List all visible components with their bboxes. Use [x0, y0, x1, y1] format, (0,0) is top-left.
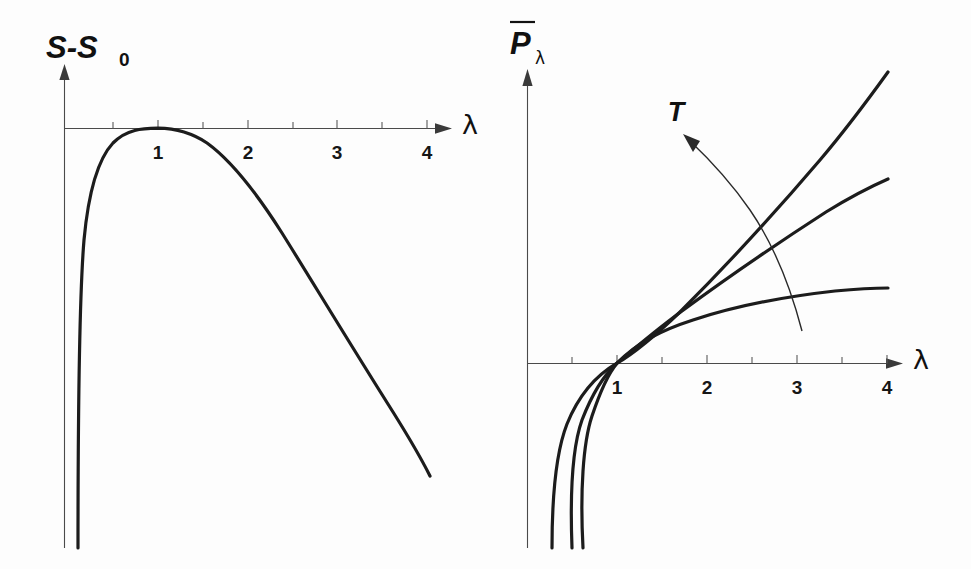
figure-container: 1 2 3 4 S-S 0 λ: [0, 0, 971, 569]
temperature-annotation-label: T: [668, 97, 687, 127]
x-axis-arrowhead: [886, 358, 903, 369]
nominal-stress-vs-extension-plot: 1 2 3 4 P λ λ T: [490, 0, 971, 569]
x-axis-arrowhead: [435, 123, 452, 134]
x-tick-label-2: 2: [243, 142, 254, 163]
stress-plot-svg: 1 2 3 4 P λ λ T: [490, 0, 971, 569]
y-axis-title: P: [510, 26, 531, 61]
x-tick-label-4: 4: [882, 377, 893, 398]
entropy-plot-svg: 1 2 3 4 S-S 0 λ: [0, 0, 490, 569]
x-axis-title: λ: [913, 344, 929, 375]
x-tick-label-3: 3: [792, 377, 803, 398]
y-axis-title: S-S: [46, 30, 98, 65]
isotherm-high-T-curve: [552, 72, 888, 548]
x-axis-title: λ: [462, 109, 478, 140]
y-axis-title-subscript: 0: [119, 49, 130, 70]
x-tick-label-3: 3: [332, 142, 343, 163]
y-axis-title-subscript: λ: [535, 48, 545, 68]
y-axis-arrowhead: [59, 64, 69, 80]
x-tick-label-4: 4: [422, 142, 433, 163]
entropy-change-curve: [78, 128, 430, 548]
x-tick-label-1: 1: [153, 142, 164, 163]
x-tick-label-2: 2: [702, 377, 713, 398]
temperature-arrow-curve: [689, 140, 802, 331]
entropy-vs-extension-plot: 1 2 3 4 S-S 0 λ: [0, 0, 490, 569]
x-tick-label-1: 1: [612, 377, 623, 398]
y-axis-arrowhead: [522, 69, 532, 86]
isotherm-low-T-curve: [582, 288, 888, 548]
temperature-arrowhead: [683, 134, 700, 152]
